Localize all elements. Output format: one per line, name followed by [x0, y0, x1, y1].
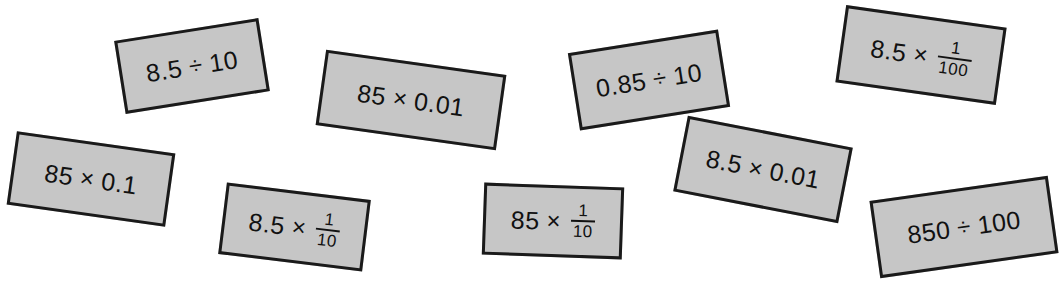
expression-text: 8.5÷10 — [144, 46, 240, 85]
left-operand: 8.5 — [247, 209, 286, 238]
left-operand: 8.5 — [144, 55, 184, 85]
expression-card-85-times-0-1[interactable]: 85×0.1 — [7, 131, 176, 227]
fraction: 110 — [314, 210, 342, 251]
fraction-numerator: 1 — [948, 39, 964, 59]
right-operand: 10 — [672, 59, 704, 88]
expression-text: 0.85÷10 — [594, 59, 704, 100]
division-operator-icon: ÷ — [956, 214, 973, 240]
division-operator-icon: ÷ — [187, 52, 204, 78]
fraction-denominator: 10 — [571, 222, 596, 241]
expression-card-8-5-times-one-tenth[interactable]: 8.5×110 — [218, 182, 371, 271]
right-operand: 0.01 — [768, 159, 823, 193]
multiplication-operator-icon: × — [912, 42, 930, 68]
multiplication-operator-icon: × — [747, 155, 766, 181]
expression-text: 8.5×0.01 — [704, 146, 822, 193]
right-operand: 10 — [207, 46, 239, 75]
expression-text: 85×0.1 — [43, 160, 139, 198]
expression-card-8-5-divide-10[interactable]: 8.5÷10 — [114, 18, 270, 114]
fraction: 1100 — [935, 38, 974, 80]
fraction: 110 — [571, 202, 596, 241]
multiplication-operator-icon: × — [546, 209, 561, 233]
expression-card-850-divide-100[interactable]: 850÷100 — [869, 176, 1058, 278]
fraction-numerator: 1 — [321, 210, 337, 230]
fraction-numerator: 1 — [576, 202, 591, 220]
expression-text: 850÷100 — [906, 207, 1022, 248]
division-operator-icon: ÷ — [651, 65, 668, 91]
left-operand: 85 — [510, 207, 540, 233]
expression-card-8-5-times-one-hundredth[interactable]: 8.5×1100 — [835, 5, 1006, 105]
left-operand: 0.85 — [594, 68, 648, 101]
expression-card-85-times-one-tenth[interactable]: 85×110 — [482, 183, 624, 260]
left-operand: 8.5 — [869, 36, 908, 66]
right-operand: 100 — [976, 207, 1022, 238]
expression-card-0-85-divide-10[interactable]: 0.85÷10 — [568, 30, 730, 131]
expression-card-8-5-times-0-01[interactable]: 8.5×0.01 — [673, 116, 853, 224]
expression-text: 8.5×110 — [247, 203, 343, 252]
left-operand: 85 — [43, 160, 75, 189]
fraction-denominator: 100 — [935, 57, 971, 80]
left-operand: 850 — [906, 217, 952, 248]
left-operand: 8.5 — [704, 146, 744, 177]
right-operand: 0.1 — [100, 168, 139, 198]
left-operand: 85 — [356, 80, 388, 109]
multiplication-operator-icon: × — [290, 215, 307, 241]
expression-text: 85×0.01 — [356, 80, 466, 120]
expression-text: 8.5×1100 — [868, 29, 974, 81]
expression-text: 85×110 — [510, 201, 596, 242]
right-operand: 0.01 — [413, 88, 467, 120]
fraction-denominator: 10 — [314, 230, 340, 251]
expression-card-85-times-0-01[interactable]: 85×0.01 — [316, 50, 507, 151]
expression-card-sort-activity: 8.5÷1085×0.010.85÷108.5×110085×0.18.5×11… — [0, 0, 1061, 289]
multiplication-operator-icon: × — [78, 166, 96, 192]
multiplication-operator-icon: × — [391, 86, 409, 112]
